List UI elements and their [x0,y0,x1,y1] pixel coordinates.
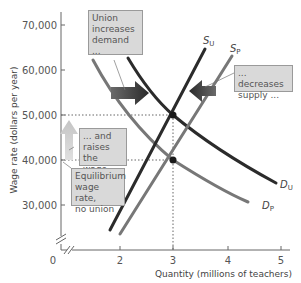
note-line: raises the [83,142,123,164]
note-line: Equilibrium [75,171,121,182]
y-axis: 70,000 60,000 50,000 40,000 30,000 Wage … [9,12,66,250]
union-demand-note: Union increases demand ... [88,10,143,55]
no-union-equilibrium-point [170,157,177,164]
note-line: ... decreases [238,68,289,90]
note-line: wage rate, [75,182,121,204]
sp-label: SP [230,43,241,56]
demand-shift-right-arrow-icon [111,81,149,105]
y-tick-70000: 70,000 [22,20,57,31]
y-tick-30000: 30,000 [22,200,57,211]
decrease-supply-note: ... decreases supply ... [234,65,293,92]
equilibrium-no-union-note: Equilibrium wage rate, no union [71,168,125,206]
y-tick-60000: 60,000 [22,65,57,76]
y-axis-title: Wage rate (dollars per year) [9,67,19,194]
x-axis-title: Quantity (millions of teachers) [155,269,292,279]
raise-wage-note: ... and raises the wage rate [79,128,127,166]
x-tick-4: 4 [225,255,231,266]
labor-market-chart: 70,000 60,000 50,000 40,000 30,000 Wage … [0,0,301,283]
x-tick-5: 5 [278,255,284,266]
note-line: Union [92,13,139,24]
du-label: DU [280,179,293,192]
note-line: ... and [83,131,123,142]
dp-label: DP [262,200,274,213]
note-line: supply ... [238,90,289,101]
x-tick-0: 0 [50,255,56,266]
union-equilibrium-point [170,112,177,119]
x-tick-3: 3 [170,255,176,266]
note-line: no union [75,204,121,215]
note-line: demand ... [92,35,139,57]
note-line: increases [92,24,139,35]
x-tick-2: 2 [117,255,123,266]
y-tick-50000: 50,000 [22,110,57,121]
y-tick-40000: 40,000 [22,155,57,166]
su-label: SU [203,35,214,48]
x-axis: 0 2 3 4 5 Quantity (millions of teachers… [50,246,292,279]
raise-wage-arrow-icon [60,120,78,160]
